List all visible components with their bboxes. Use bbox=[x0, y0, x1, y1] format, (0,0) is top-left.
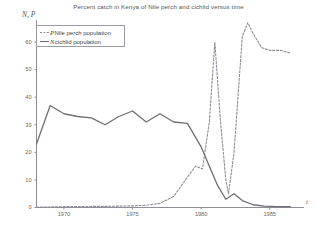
y-tick-label: 40 bbox=[20, 94, 32, 100]
y-tick-label: 20 bbox=[20, 149, 32, 155]
legend-label-cichlid: cichlid population bbox=[55, 39, 101, 45]
legend-symbol-n: N bbox=[50, 38, 54, 45]
solid-line-icon bbox=[40, 39, 49, 44]
data-series-group bbox=[37, 23, 291, 207]
y-tick-label: 0 bbox=[20, 204, 32, 210]
y-tick-label: 60 bbox=[20, 39, 32, 45]
dashed-line-icon bbox=[40, 30, 49, 35]
legend: P Nile perch population N cichlid popula… bbox=[36, 25, 125, 47]
x-tick-label: 1980 bbox=[189, 211, 213, 217]
x-tick-label: 1975 bbox=[121, 211, 145, 217]
legend-item-cichlid: N cichlid population bbox=[40, 37, 121, 46]
legend-label-nile-perch: Nile perch population bbox=[54, 30, 110, 36]
legend-item-nile-perch: P Nile perch population bbox=[40, 28, 121, 37]
series-line-nile-perch-population bbox=[37, 23, 291, 207]
chart-page: Percent catch in Kenya of Nile perch and… bbox=[0, 0, 317, 229]
series-line-cichlid-population bbox=[37, 105, 291, 206]
legend-symbol-p: P bbox=[50, 29, 54, 36]
y-tick-label: 50 bbox=[20, 66, 32, 72]
y-tick-label: 10 bbox=[20, 177, 32, 183]
x-tick-label: 1985 bbox=[258, 211, 282, 217]
y-tick-label: 30 bbox=[20, 122, 32, 128]
x-tick-label: 1970 bbox=[52, 211, 76, 217]
